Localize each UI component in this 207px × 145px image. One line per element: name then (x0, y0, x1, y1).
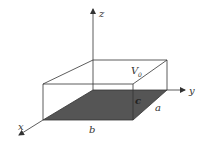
width-label-b: b (89, 124, 95, 135)
box-diagram: z y x V 0 b a c (0, 0, 207, 145)
z-axis-label: z (98, 8, 105, 19)
x-axis-label: x (18, 121, 24, 132)
top-face (43, 60, 167, 84)
base-face (43, 90, 167, 120)
potential-subscript: 0 (138, 71, 142, 78)
depth-label-a: a (155, 102, 161, 113)
height-label-c: c (135, 95, 141, 106)
y-axis-label: y (188, 85, 195, 96)
